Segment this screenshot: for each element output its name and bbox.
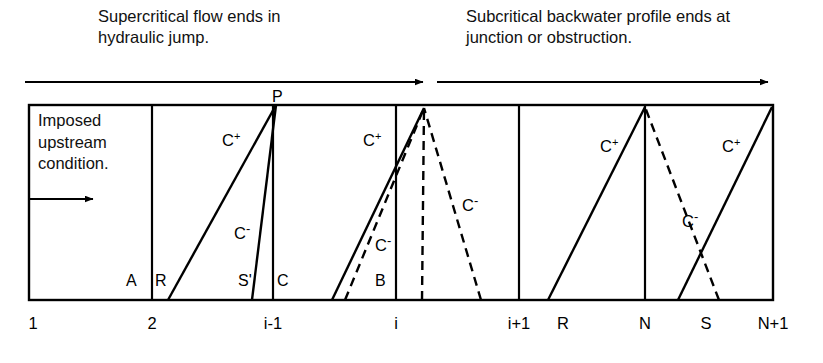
characteristic-base-glyph: C (234, 224, 246, 242)
characteristic-label-c-minus-1: C- (234, 224, 250, 243)
c-minus-dash-2 (422, 108, 424, 300)
axis-label-iplus1: i+1 (508, 314, 530, 333)
characteristic-sign-glyph: + (375, 130, 381, 142)
characteristic-label-c-plus-4: C+ (722, 137, 740, 156)
characteristic-sign-glyph: + (612, 136, 618, 148)
characteristic-base-glyph: C (722, 137, 734, 155)
point-label-a: A (126, 272, 137, 290)
c-plus-seg-3 (548, 107, 645, 300)
characteristic-sign-glyph: + (734, 136, 740, 148)
characteristic-label-c-plus-1: C+ (222, 131, 240, 150)
characteristic-sign-glyph: - (387, 233, 391, 248)
axis-label-2: 2 (147, 314, 156, 333)
characteristic-sign-glyph: - (694, 209, 698, 224)
characteristic-label-c-minus-3: C- (462, 196, 478, 215)
axis-label-R: R (557, 314, 569, 333)
axis-label-N: N (639, 314, 651, 333)
characteristic-label-c-plus-2: C+ (363, 131, 381, 150)
characteristic-label-c-minus-4: C- (682, 212, 698, 231)
characteristic-base-glyph: C (600, 137, 612, 155)
diagram-vectors (0, 0, 823, 363)
point-label-r: R (155, 272, 167, 290)
axis-label-iminus1: i-1 (264, 314, 282, 333)
characteristic-base-glyph: C (363, 131, 375, 149)
c-minus-dash-4 (645, 107, 719, 300)
characteristic-base-glyph: C (462, 196, 474, 214)
diagram-canvas: Supercritical flow ends in hydraulic jum… (0, 0, 823, 363)
characteristic-base-glyph: C (682, 212, 694, 230)
characteristic-sign-glyph: - (246, 221, 250, 236)
channel-box-outline (29, 105, 773, 300)
axis-label-Nplus1: N+1 (758, 314, 789, 333)
characteristic-base-glyph: C (222, 131, 234, 149)
box-outline-group (29, 105, 773, 300)
c-plus-seg-4 (678, 107, 772, 300)
characteristic-label-c-plus-3: C+ (600, 137, 618, 156)
dashed-characteristics-group (345, 107, 719, 300)
characteristic-sign-glyph: + (234, 130, 240, 142)
characteristic-label-c-minus-2: C- (375, 236, 391, 255)
characteristic-sign-glyph: - (474, 193, 478, 208)
point-label-p: P (272, 88, 283, 106)
axis-label-S: S (700, 314, 711, 333)
characteristic-base-glyph: C (375, 236, 387, 254)
point-label-b: B (375, 272, 386, 290)
axis-label-1: 1 (28, 314, 37, 333)
point-label-c: C (277, 272, 289, 290)
point-label-s-prime: S' (238, 272, 252, 290)
axis-label-i: i (394, 314, 398, 333)
